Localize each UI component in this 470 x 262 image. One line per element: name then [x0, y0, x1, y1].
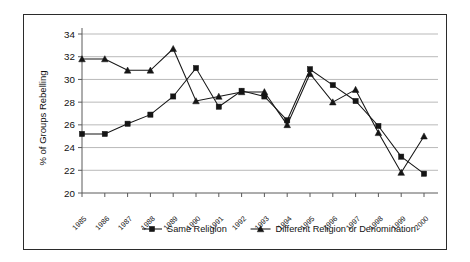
x-axis-tick-label: 1985	[70, 214, 88, 232]
y-axis-tick-label: 34	[64, 29, 75, 40]
data-point-same-religion-1986	[102, 131, 107, 136]
data-point-same-religion-1990	[193, 65, 198, 70]
data-point-same-religion-1996	[330, 83, 335, 88]
legend-label-1: Different Religion or Denomination	[276, 224, 416, 234]
series-line-same-religion	[82, 68, 424, 174]
chart-figure-frame: 2022242628303234% of Groups Rebelling198…	[23, 14, 447, 250]
x-axis-tick-label: 1992	[230, 214, 248, 232]
data-point-different-religion-1997	[352, 86, 359, 92]
series-line-different-religion	[82, 49, 424, 173]
data-point-same-religion-1988	[148, 112, 153, 117]
data-point-same-religion-1998	[376, 123, 381, 128]
y-axis-tick-label: 24	[64, 142, 75, 153]
chart-plot-wrapper: 2022242628303234% of Groups Rebelling198…	[24, 15, 448, 251]
x-axis-tick-label: 1987	[116, 214, 134, 232]
data-point-same-religion-1985	[79, 131, 84, 136]
legend-label-0: Same Religion	[167, 224, 227, 234]
y-axis-title: % of Groups Rebelling	[37, 70, 48, 165]
legend-marker-square-icon	[149, 226, 154, 231]
data-point-same-religion-1999	[399, 154, 404, 159]
data-point-different-religion-1998	[375, 130, 382, 136]
data-point-same-religion-1991	[216, 104, 221, 109]
data-point-different-religion-2000	[421, 133, 428, 139]
y-axis-tick-label: 32	[64, 51, 75, 62]
y-axis-tick-label: 26	[64, 119, 75, 130]
x-axis-tick-label: 1986	[93, 214, 111, 232]
data-point-same-religion-1997	[353, 98, 358, 103]
data-point-different-religion-1989	[170, 45, 177, 51]
y-axis-tick-label: 22	[64, 165, 75, 176]
y-axis-tick-label: 30	[64, 74, 75, 85]
data-point-same-religion-1989	[171, 94, 176, 99]
data-point-same-religion-2000	[421, 171, 426, 176]
data-point-same-religion-1987	[125, 121, 130, 126]
y-axis-tick-label: 28	[64, 97, 75, 108]
y-axis-tick-label: 20	[64, 188, 75, 199]
line-chart: 2022242628303234% of Groups Rebelling198…	[24, 15, 448, 251]
